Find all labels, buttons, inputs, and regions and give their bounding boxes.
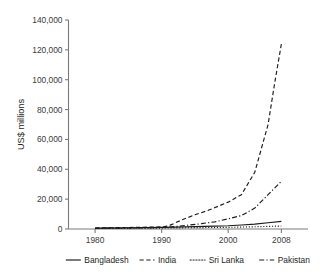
legend-label-pakistan: Pakistan bbox=[278, 255, 310, 265]
line-chart: 020,00040,00060,00080,000100,000120,0001… bbox=[0, 0, 324, 278]
y-tick-label: 60,000 bbox=[37, 134, 63, 144]
series-lines bbox=[95, 44, 281, 229]
x-tick-label: 2008 bbox=[272, 235, 291, 245]
y-tick-label: 140,000 bbox=[32, 15, 63, 25]
x-tick-label: 1990 bbox=[152, 235, 171, 245]
y-tick-label: 20,000 bbox=[37, 194, 63, 204]
x-axis: 1980199020002008 bbox=[69, 229, 309, 245]
y-tick-label: 120,000 bbox=[32, 45, 63, 55]
chart-legend: BangladeshIndiaSri LankaPakistan bbox=[66, 255, 310, 265]
legend-label-sri-lanka: Sri Lanka bbox=[209, 255, 245, 265]
y-tick-label: 100,000 bbox=[32, 75, 63, 85]
series-line-pakistan bbox=[95, 181, 281, 228]
y-tick-label: 0 bbox=[58, 224, 63, 234]
x-tick-label: 2000 bbox=[219, 235, 238, 245]
chart-figure: 020,00040,00060,00080,000100,000120,0001… bbox=[0, 0, 324, 278]
y-axis-title-label: US$ millions bbox=[16, 99, 26, 150]
y-axis-title: US$ millions bbox=[16, 99, 26, 150]
legend-label-bangladesh: Bangladesh bbox=[84, 255, 129, 265]
x-tick-label: 1980 bbox=[86, 235, 105, 245]
y-tick-label: 40,000 bbox=[37, 164, 63, 174]
y-tick-label: 80,000 bbox=[37, 105, 63, 115]
legend-label-india: India bbox=[158, 255, 177, 265]
series-line-india bbox=[95, 44, 281, 228]
y-axis: 020,00040,00060,00080,000100,000120,0001… bbox=[32, 15, 68, 234]
